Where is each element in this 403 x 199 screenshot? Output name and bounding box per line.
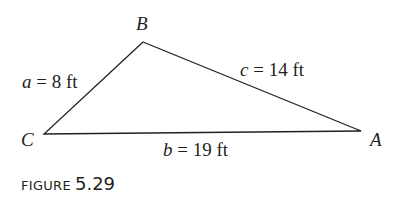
figure-caption: FIGURE5.29 [21,175,115,193]
caption-number: 5.29 [75,173,115,194]
vertex-label-a: A [370,130,382,149]
triangle-shape [0,0,403,199]
side-label-a: a = 8 ft [22,72,78,91]
side-var-a: a [22,71,32,92]
side-label-b: b = 19 ft [163,140,228,159]
vertex-label-b: B [136,14,148,33]
side-value-b: = 19 ft [173,139,229,160]
side-label-c: c = 14 ft [240,60,304,79]
side-value-c: = 14 ft [248,59,304,80]
side-var-b: b [163,139,173,160]
side-value-a: = 8 ft [32,71,78,92]
vertex-label-c: C [21,130,34,149]
triangle-figure: B C A a = 8 ft c = 14 ft b = 19 ft [0,0,403,199]
caption-word: FIGURE [21,178,71,193]
